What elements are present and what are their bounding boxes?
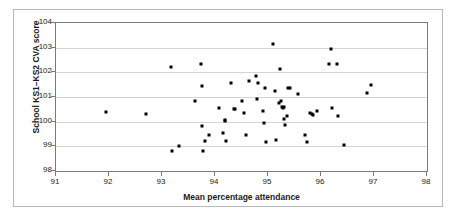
x-axis-tick-mark	[373, 172, 374, 176]
data-point	[255, 75, 258, 78]
data-point	[194, 99, 197, 102]
data-point	[200, 124, 203, 127]
gridline	[56, 122, 427, 123]
data-point	[262, 122, 265, 125]
data-point	[218, 107, 221, 110]
data-point	[257, 82, 260, 85]
y-axis-tick-mark	[51, 170, 55, 171]
x-axis-tick-labels: 9192939495969798	[55, 178, 428, 190]
x-axis-tick-mark	[267, 172, 268, 176]
gridline	[56, 97, 427, 98]
x-axis-title: Mean percentage attendance	[55, 192, 428, 202]
y-axis-tick-mark	[51, 145, 55, 146]
x-axis-tick-label: 93	[157, 178, 166, 186]
data-point	[274, 139, 277, 142]
data-point	[244, 134, 247, 137]
data-point	[178, 144, 181, 147]
data-point	[335, 62, 338, 65]
data-point	[330, 107, 333, 110]
data-point	[273, 90, 276, 93]
data-point	[248, 79, 251, 82]
x-axis-tick-label: 92	[104, 178, 113, 186]
data-point	[170, 65, 173, 68]
y-axis-tick-label: 102	[39, 67, 52, 75]
data-point	[200, 85, 203, 88]
data-point	[305, 141, 308, 144]
x-axis-tick-mark	[161, 172, 162, 176]
data-point	[170, 149, 173, 152]
y-axis-tick-mark	[51, 71, 55, 72]
x-axis-tick-label: 94	[210, 178, 219, 186]
plot-area	[55, 22, 428, 172]
data-point	[234, 108, 237, 111]
data-point	[243, 112, 246, 115]
data-point	[204, 139, 207, 142]
data-point	[329, 47, 332, 50]
y-axis-tick-mark	[51, 22, 55, 23]
data-point	[304, 134, 307, 137]
data-point	[312, 114, 315, 117]
data-point	[201, 149, 204, 152]
gridline	[56, 72, 427, 73]
y-axis-tick-label: 100	[39, 117, 52, 125]
data-point	[278, 67, 281, 70]
data-point	[289, 87, 292, 90]
data-point	[280, 99, 283, 102]
data-point	[315, 109, 318, 112]
data-point	[283, 124, 286, 127]
data-point	[240, 99, 243, 102]
data-point	[336, 114, 339, 117]
x-axis-tick-mark	[108, 172, 109, 176]
data-point	[224, 119, 227, 122]
data-point	[199, 63, 202, 66]
y-axis-tick-mark	[51, 121, 55, 122]
y-axis-tick-label: 101	[39, 92, 52, 100]
x-axis-tick-label: 96	[316, 178, 325, 186]
data-point	[297, 92, 300, 95]
gridline	[56, 48, 427, 49]
scatter-chart-figure: School KS1–KS2 CVA score 989910010110210…	[0, 0, 455, 219]
data-point	[224, 139, 227, 142]
data-point	[370, 84, 373, 87]
x-axis-tick-mark	[214, 172, 215, 176]
data-point	[207, 134, 210, 137]
x-axis-tick-mark	[320, 172, 321, 176]
x-axis-tick-label: 91	[51, 178, 60, 186]
x-axis-tick-label: 95	[263, 178, 272, 186]
x-axis-tick-mark	[426, 172, 427, 176]
data-point	[229, 82, 232, 85]
data-point	[272, 43, 275, 46]
data-point	[261, 109, 264, 112]
data-point	[256, 97, 259, 100]
y-axis-tick-label: 104	[39, 18, 52, 26]
data-point	[282, 118, 285, 121]
x-axis-tick-label: 98	[422, 178, 431, 186]
data-point	[285, 114, 288, 117]
data-point	[366, 91, 369, 94]
data-point	[264, 87, 267, 90]
y-axis-tick-mark	[51, 47, 55, 48]
data-point	[327, 62, 330, 65]
y-axis-tick-labels: 9899100101102103104	[20, 22, 52, 172]
x-axis-tick-mark	[55, 172, 56, 176]
gridline	[56, 146, 427, 147]
y-axis-tick-mark	[51, 96, 55, 97]
data-point	[221, 132, 224, 135]
data-point	[282, 106, 285, 109]
data-point	[342, 144, 345, 147]
data-point	[265, 141, 268, 144]
y-axis-tick-label: 103	[39, 43, 52, 51]
x-axis-tick-label: 97	[369, 178, 378, 186]
data-point	[145, 112, 148, 115]
data-point	[105, 110, 108, 113]
